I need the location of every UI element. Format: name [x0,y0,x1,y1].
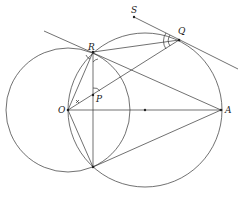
segment-TA [93,110,221,167]
angle-mark-R-right [93,59,98,62]
label-P: P [95,94,103,104]
tangent-line-S-Q [134,17,238,69]
point-T [92,166,95,169]
point-P [92,94,94,96]
point-Q [178,39,181,42]
label-Q: Q [178,26,186,36]
segment-RQ [93,40,179,52]
point-S [133,16,135,18]
label-A: A [224,105,232,115]
tangent-line-R-to-A [44,31,221,110]
label-S: S [131,5,137,15]
point-O [67,109,70,112]
segment-OR [68,52,93,110]
point-A [220,109,223,112]
label-R: R [87,42,95,52]
label-O: O [58,105,66,115]
angle-mark-O [76,100,79,103]
geometry-diagram: O A R P Q S [0,0,241,197]
point-midpoint [144,109,146,111]
segment-OT [68,110,93,167]
